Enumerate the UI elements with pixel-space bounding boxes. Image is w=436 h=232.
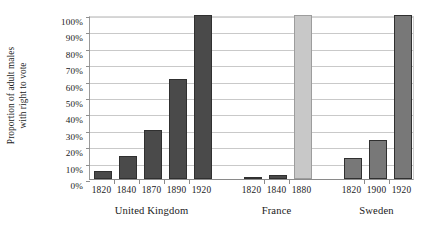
x-axis-tick-label: 1880 xyxy=(292,184,312,197)
x-axis-tick-label: 1820 xyxy=(342,184,362,197)
x-axis-tick-label: 1840 xyxy=(267,184,287,197)
bar xyxy=(144,130,162,179)
x-axis-tick-label: 1920 xyxy=(192,184,212,197)
y-axis-tick-label: 90% xyxy=(66,33,83,43)
x-axis-group-label: United Kingdom xyxy=(115,203,189,218)
y-axis-title-line-2: with right to vote xyxy=(18,46,30,143)
bar-chart-figure: Proportion of adult males with right to … xyxy=(0,0,436,232)
x-axis-tick-labels: 1820184018701890192018201840188018201900… xyxy=(89,184,414,200)
y-axis-tick-label: 10% xyxy=(66,165,83,175)
x-axis-tick-label: 1820 xyxy=(242,184,262,197)
bar xyxy=(194,15,212,179)
bar xyxy=(369,140,387,179)
y-axis-tick-labels: 100%90%80%70%60%50%40%30%20%10%0% xyxy=(36,11,88,185)
y-axis-tick-label: 30% xyxy=(66,132,83,142)
bar xyxy=(294,15,312,179)
y-axis-tick-label: 0% xyxy=(70,181,83,191)
x-axis-group-labels: United KingdomFranceSweden xyxy=(89,203,414,223)
x-axis-tick-label: 1870 xyxy=(142,184,162,197)
y-axis-tick-label: 50% xyxy=(66,99,83,109)
y-axis-title: Proportion of adult males with right to … xyxy=(0,0,36,190)
x-axis-group-label: France xyxy=(262,203,292,218)
bar xyxy=(344,158,362,179)
x-axis-tick-label: 1900 xyxy=(367,184,387,197)
bar xyxy=(394,15,412,179)
y-axis-title-line-1: Proportion of adult males xyxy=(7,46,19,143)
y-axis-tick-label: 70% xyxy=(66,66,83,76)
bar xyxy=(119,156,137,179)
bar xyxy=(269,175,287,179)
bar xyxy=(169,79,187,179)
y-axis-tick-label: 40% xyxy=(66,115,83,125)
x-axis-tick-label: 1820 xyxy=(92,184,112,197)
x-axis-group-label: Sweden xyxy=(359,203,393,218)
y-axis-tick-label: 60% xyxy=(66,83,83,93)
y-axis-tick-label: 100% xyxy=(61,17,83,27)
x-axis-tick-label: 1840 xyxy=(117,184,137,197)
bar xyxy=(94,171,112,179)
bars-layer xyxy=(90,17,413,179)
bar xyxy=(244,177,262,179)
x-axis-tick-label: 1890 xyxy=(167,184,187,197)
y-axis-tick-label: 80% xyxy=(66,50,83,60)
plot-area xyxy=(89,16,414,180)
y-axis-tick-label: 20% xyxy=(66,148,83,158)
x-axis-tick-label: 1920 xyxy=(392,184,412,197)
